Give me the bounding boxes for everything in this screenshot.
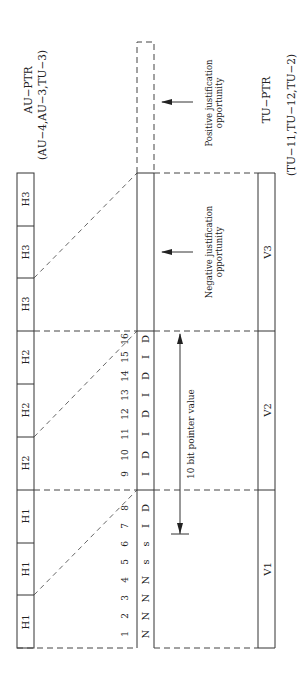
au-ptr-caption: AU−PTR (AU−4,AU−3,TU−3) [22, 50, 48, 160]
svg-text:3: 3 [120, 595, 130, 601]
svg-text:12: 12 [120, 408, 130, 419]
negative-justification-arrow-icon [161, 249, 193, 255]
svg-text:D: D [140, 504, 151, 512]
svg-text:Positive justification: Positive justification [204, 59, 214, 147]
svg-text:D: D [140, 451, 151, 459]
svg-text:1: 1 [120, 631, 130, 637]
header-byte-h3: H3 [20, 244, 31, 259]
svg-text:I: I [140, 524, 151, 528]
svg-text:s: s [140, 541, 151, 546]
svg-text:10: 10 [120, 449, 130, 461]
bit-types: N N N N s s I D I D I D I D I D [140, 335, 151, 638]
au-ptr-title: AU−PTR [22, 65, 34, 114]
svg-text:13: 13 [120, 389, 130, 401]
svg-text:opportunity: opportunity [214, 227, 224, 278]
svg-text:14: 14 [120, 370, 130, 382]
svg-text:I: I [140, 432, 151, 436]
pointer-value-label: 10 bit pointer value [186, 389, 196, 479]
svg-text:I: I [140, 472, 151, 476]
positive-justification-slot [137, 42, 154, 173]
tu-ptr-caption: TU−PTR (TU−11,TU−12,TU−2) [260, 54, 297, 176]
svg-text:I: I [140, 393, 151, 397]
expansion-lines [34, 173, 137, 595]
tu-ptr-subtitle: (TU−11,TU−12,TU−2) [285, 54, 297, 176]
v-byte-v3: V3 [262, 245, 273, 260]
svg-text:Negative justification: Negative justification [204, 205, 214, 298]
svg-text:opportunity: opportunity [214, 78, 224, 129]
svg-text:I: I [140, 355, 151, 359]
svg-text:N: N [140, 611, 151, 620]
svg-text:5: 5 [120, 559, 130, 565]
svg-text:7: 7 [120, 523, 130, 529]
svg-text:N: N [140, 575, 151, 584]
svg-text:11: 11 [120, 428, 130, 439]
v-byte-v2: V2 [262, 403, 273, 418]
v-byte-v1: V1 [262, 562, 273, 577]
au-ptr-subtitle: (AU−4,AU−3,TU−3) [36, 50, 48, 160]
svg-text:D: D [140, 410, 151, 418]
header-byte-h1: H1 [20, 614, 31, 629]
header-byte-h2: H2 [20, 349, 31, 364]
svg-text:N: N [140, 593, 151, 602]
pointer-diagram: H1 H1 H1 H2 H2 H2 H3 H3 H3 [0, 0, 301, 685]
bit-numbers: 1 2 3 4 5 6 7 8 9 10 11 12 13 14 15 16 [120, 333, 130, 637]
svg-text:s: s [140, 559, 151, 564]
pointer-frame [17, 42, 275, 648]
svg-text:15: 15 [120, 351, 130, 363]
svg-text:16: 16 [120, 333, 130, 345]
header-byte-h1: H1 [20, 508, 31, 523]
svg-text:4: 4 [120, 577, 130, 583]
header-byte-h2: H2 [20, 455, 31, 470]
positive-justification-label: Positive justification opportunity [204, 59, 224, 147]
svg-text:9: 9 [120, 471, 130, 477]
svg-text:N: N [140, 629, 151, 638]
header-byte-h1: H1 [20, 561, 31, 576]
header-byte-h2: H2 [20, 402, 31, 417]
svg-text:D: D [140, 372, 151, 380]
svg-text:2: 2 [120, 613, 130, 619]
header-byte-h3: H3 [20, 191, 31, 206]
svg-text:6: 6 [120, 541, 130, 547]
header-byte-h3: H3 [20, 296, 31, 311]
svg-text:8: 8 [120, 505, 130, 511]
svg-text:D: D [140, 335, 151, 343]
tu-ptr-title: TU−PTR [260, 76, 272, 124]
positive-justification-arrow-icon [161, 99, 193, 105]
negative-justification-label: Negative justification opportunity [204, 205, 224, 298]
